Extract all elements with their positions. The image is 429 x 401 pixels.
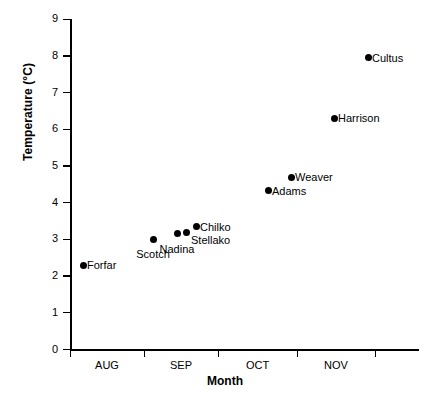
data-point-label-adams: Adams — [272, 186, 306, 197]
y-axis-title: Temperature (°C) — [21, 12, 35, 212]
y-tick-8 — [63, 55, 70, 56]
y-axis-line — [70, 19, 72, 350]
y-tick-label-1: 1 — [40, 307, 58, 318]
data-point-harrison[interactable] — [331, 115, 338, 122]
x-tick-4 — [375, 350, 376, 357]
data-point-label-chilko: Chilko — [200, 222, 231, 233]
data-point-stellako[interactable] — [183, 229, 190, 236]
y-tick-6 — [63, 129, 70, 130]
data-point-label-forfar: Forfar — [87, 260, 116, 271]
y-tick-label-7: 7 — [40, 87, 58, 98]
y-tick-2 — [63, 275, 70, 276]
y-tick-label-4: 4 — [40, 197, 58, 208]
y-tick-label-5: 5 — [40, 160, 58, 171]
data-point-chilko[interactable] — [193, 223, 200, 230]
y-tick-9 — [63, 19, 70, 20]
data-point-label-weaver: Weaver — [295, 172, 333, 183]
y-tick-5 — [63, 165, 70, 166]
y-tick-label-3: 3 — [40, 233, 58, 244]
x-tick-label-aug: AUG — [77, 360, 137, 371]
x-axis-title: Month — [70, 374, 380, 388]
y-tick-label-0: 0 — [40, 344, 58, 355]
data-point-forfar[interactable] — [80, 262, 87, 269]
y-tick-label-2: 2 — [40, 270, 58, 281]
x-tick-label-oct: OCT — [228, 360, 288, 371]
data-point-cultus[interactable] — [365, 54, 372, 61]
x-tick-2 — [218, 350, 219, 357]
data-point-nadina[interactable] — [174, 230, 181, 237]
x-tick-label-sep: SEP — [151, 360, 211, 371]
x-tick-1 — [144, 350, 145, 357]
data-point-scotch[interactable] — [150, 236, 157, 243]
x-tick-3 — [297, 350, 298, 357]
x-axis-line — [70, 349, 419, 351]
y-tick-1 — [63, 312, 70, 313]
data-point-label-cultus: Cultus — [372, 53, 403, 64]
data-point-label-harrison: Harrison — [338, 113, 380, 124]
scatter-chart: Temperature (°C) 0123456789 AUGSEPOCTNOV… — [0, 0, 429, 401]
data-point-label-stellako: Stellako — [191, 235, 230, 246]
y-tick-0 — [63, 349, 70, 350]
y-tick-label-9: 9 — [40, 13, 58, 24]
y-tick-3 — [63, 239, 70, 240]
y-tick-label-6: 6 — [40, 123, 58, 134]
x-tick-0 — [70, 350, 71, 357]
data-point-adams[interactable] — [265, 187, 272, 194]
data-point-weaver[interactable] — [288, 174, 295, 181]
y-tick-label-8: 8 — [40, 50, 58, 61]
y-tick-7 — [63, 92, 70, 93]
y-tick-4 — [63, 202, 70, 203]
x-tick-label-nov: NOV — [306, 360, 366, 371]
